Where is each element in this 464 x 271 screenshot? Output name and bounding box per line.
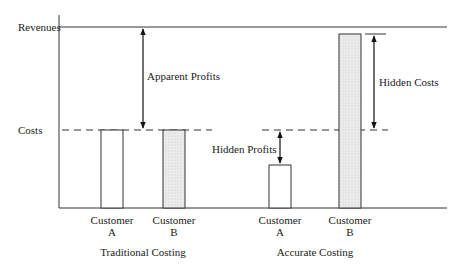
traditional-customer-a-label: Customer A (91, 214, 134, 238)
accurate-costing-label: Accurate Costing (277, 246, 354, 258)
bar-accurate-customer-a (269, 165, 291, 208)
costing-diagram (0, 0, 464, 271)
hidden-profits-label: Hidden Profits (212, 143, 276, 155)
hidden-costs-label: Hidden Costs (379, 76, 439, 88)
bar-traditional-customer-b (163, 130, 185, 208)
apparent-profits-label: Apparent Profits (147, 70, 220, 82)
customer-text: Customer (153, 214, 196, 226)
customer-text: Customer (259, 214, 302, 226)
traditional-costing-label: Traditional Costing (100, 246, 185, 258)
bar-accurate-customer-b (339, 34, 361, 208)
customer-text: Customer (91, 214, 134, 226)
customer-letter: B (329, 226, 372, 238)
customer-letter: A (259, 226, 302, 238)
customer-text: Customer (329, 214, 372, 226)
customer-letter: B (153, 226, 196, 238)
bar-traditional-customer-a (101, 130, 123, 208)
costs-label: Costs (18, 124, 42, 136)
revenues-label: Revenues (18, 21, 61, 33)
traditional-customer-b-label: Customer B (153, 214, 196, 238)
accurate-customer-a-label: Customer A (259, 214, 302, 238)
customer-letter: A (91, 226, 134, 238)
accurate-customer-b-label: Customer B (329, 214, 372, 238)
